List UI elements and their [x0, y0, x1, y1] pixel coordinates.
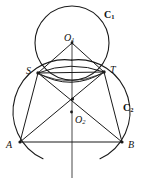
point-b: [120, 140, 123, 143]
label-center-o2-subscript: 2: [82, 118, 85, 125]
label-point-a: A: [6, 140, 12, 150]
segment-t-a: [20, 72, 104, 142]
point-intersection-x: [71, 97, 74, 100]
label-circle-c1: C1: [104, 10, 114, 21]
segment-t-b: [104, 72, 122, 142]
geometry-canvas: [0, 0, 151, 188]
label-center-o2: O2: [75, 115, 85, 126]
circle-c2-left-arc: [13, 60, 71, 159]
label-point-s: S: [26, 66, 31, 76]
label-center-o1: O1: [64, 33, 74, 44]
label-circle-c1-subscript: 1: [111, 13, 114, 20]
label-circle-c2: C2: [123, 103, 133, 114]
label-point-t: T: [110, 65, 116, 75]
point-t: [102, 70, 105, 73]
label-circle-c2-subscript: 2: [130, 106, 133, 113]
label-center-o1-subscript: 1: [71, 36, 74, 43]
segment-s-b: [38, 73, 122, 142]
geometry-figure: C1 C2 O1 O2 S T A B: [0, 0, 151, 188]
segment-o1-s: [38, 43, 72, 73]
point-s: [36, 71, 39, 74]
point-a: [18, 140, 21, 143]
segment-s-a: [20, 73, 38, 142]
label-point-b: B: [128, 140, 134, 150]
point-o2: [70, 111, 73, 114]
